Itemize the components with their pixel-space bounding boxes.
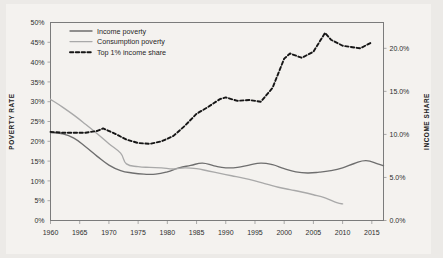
- poverty-income-share-chart: 0%5%10%15%20%25%30%35%40%45%50% 0.0%5.0%…: [0, 0, 443, 258]
- left-axis-title: POVERTY RATE: [8, 93, 15, 149]
- legend-label-1: Income poverty: [97, 27, 147, 36]
- legend-label-2: Consumption poverty: [97, 37, 165, 46]
- right-tick-label: 5.0%: [390, 174, 406, 181]
- x-tick-label: 1975: [130, 229, 146, 236]
- right-axis-title: INCOME SHARE: [423, 93, 430, 150]
- chart-legend: Income povertyConsumption povertyTop 1% …: [70, 27, 166, 57]
- left-tick-label: 10%: [30, 178, 44, 185]
- series-income-poverty: [51, 133, 384, 175]
- x-tick-label: 1980: [160, 229, 176, 236]
- right-tick-label: 20.0%: [390, 45, 410, 52]
- series-lines: [51, 33, 384, 204]
- left-tick-label: 0%: [34, 217, 44, 224]
- x-tick-label: 1990: [218, 229, 234, 236]
- left-axis-tick-labels: 0%5%10%15%20%25%30%35%40%45%50%: [30, 19, 44, 224]
- left-tick-label: 50%: [30, 19, 44, 26]
- left-tick-label: 15%: [30, 158, 44, 165]
- x-tick-label: 1985: [189, 229, 205, 236]
- x-tick-label: 1995: [247, 229, 263, 236]
- left-tick-label: 20%: [30, 138, 44, 145]
- x-tick-label: 2015: [364, 229, 380, 236]
- right-axis-tick-labels: 0.0%5.0%10.0%15.0%20.0%: [390, 45, 410, 224]
- x-tick-label: 2000: [276, 229, 292, 236]
- left-tick-label: 25%: [30, 118, 44, 125]
- legend-label-3: Top 1% income share: [97, 48, 166, 57]
- left-tick-label: 35%: [30, 79, 44, 86]
- x-tick-label: 1960: [43, 229, 59, 236]
- left-tick-label: 40%: [30, 59, 44, 66]
- left-tick-label: 5%: [34, 197, 44, 204]
- left-tick-label: 45%: [30, 39, 44, 46]
- left-tick-label: 30%: [30, 98, 44, 105]
- x-tick-label: 1970: [101, 229, 117, 236]
- x-axis-tick-labels: 1960196519701975198019851990199520002005…: [43, 229, 380, 236]
- chart-page: 0%5%10%15%20%25%30%35%40%45%50% 0.0%5.0%…: [0, 0, 443, 258]
- x-tick-label: 1965: [72, 229, 88, 236]
- right-tick-label: 10.0%: [390, 131, 410, 138]
- right-tick-label: 0.0%: [390, 217, 406, 224]
- x-tick-label: 2010: [335, 229, 351, 236]
- right-tick-label: 15.0%: [390, 88, 410, 95]
- x-tick-label: 2005: [306, 229, 322, 236]
- axis-tickmarks: [48, 42, 387, 224]
